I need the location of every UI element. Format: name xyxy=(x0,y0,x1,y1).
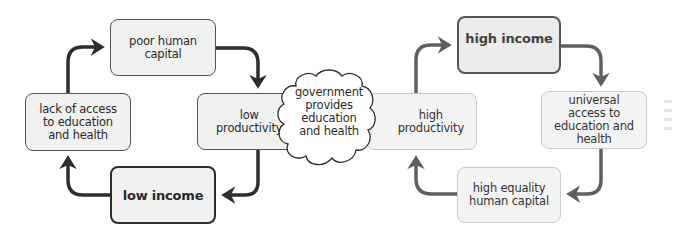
node-lack-of-access: lack of access to education and health xyxy=(25,93,131,151)
diagram-canvas: poor human capital lack of access to edu… xyxy=(0,0,676,237)
node-label: universal access to education and health xyxy=(554,94,634,146)
node-poor-human-capital: poor human capital xyxy=(110,19,216,76)
node-high-income: high income xyxy=(457,16,561,74)
arrow-high-equality-to-high-productivity xyxy=(416,158,457,194)
node-low-income: low income xyxy=(110,166,216,224)
arrow-poor-capital-to-low-productivity xyxy=(216,48,258,86)
node-label: high productivity xyxy=(398,109,464,135)
arrow-universal-access-to-high-equality xyxy=(569,148,601,194)
arrow-low-income-to-lack-of-access xyxy=(68,158,110,195)
scan-artifact xyxy=(664,100,672,160)
node-universal-access: universal access to education and health xyxy=(541,91,647,149)
node-high-equality-human-capital: high equality human capital xyxy=(457,167,561,223)
arrow-lack-of-access-to-poor-capital xyxy=(68,47,102,93)
arrow-high-income-to-universal-access xyxy=(561,46,601,84)
arrow-low-productivity-to-low-income xyxy=(224,150,258,195)
node-label: lack of access to education and health xyxy=(39,103,117,142)
arrow-high-productivity-to-high-income xyxy=(416,45,449,93)
node-label: poor human capital xyxy=(129,35,197,61)
node-high-productivity: high productivity xyxy=(366,93,477,150)
node-label: low income xyxy=(123,189,204,202)
node-label: high equality human capital xyxy=(469,182,549,208)
intervention-label: government provides education and health xyxy=(283,86,375,138)
node-label: high income xyxy=(465,32,552,45)
